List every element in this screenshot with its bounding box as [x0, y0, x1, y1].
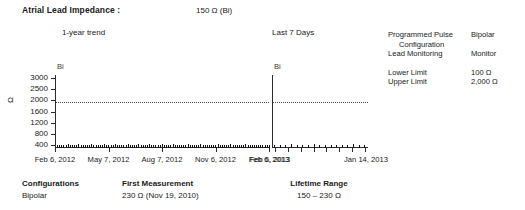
- footer-configurations-value: Bipolar: [22, 191, 79, 200]
- footer-lifetime-range-value: 150 – 230 Ω: [264, 191, 374, 200]
- param-row-lead-monitoring: Lead Monitoring Monitor: [388, 49, 525, 59]
- x-axis-tick-label: Feb 6, 2013: [244, 155, 296, 164]
- param-name: Lower Limit: [388, 68, 471, 78]
- param-name: Lead Monitoring: [388, 49, 471, 59]
- param-spacer: [388, 59, 525, 68]
- param-value: 100 Ω: [471, 68, 525, 78]
- param-value: Monitor: [471, 49, 525, 59]
- chart-last-seven-days: Bi Feb 6, 2013Jan 14, 2013: [0, 0, 380, 175]
- footer-configurations-label: Configurations: [22, 179, 79, 188]
- param-row-programmed-pulse: Programmed Pulse Bipolar: [388, 30, 525, 40]
- footer-lifetime-range: Lifetime Range 150 – 230 Ω: [264, 179, 374, 200]
- param-name: Programmed Pulse: [388, 30, 471, 40]
- param-row-lower-limit: Lower Limit 100 Ω: [388, 68, 525, 78]
- atrial-lead-impedance-panel: Atrial Lead Impedance : 150 Ω (Bi) 1-yea…: [0, 0, 525, 210]
- param-name: Upper Limit: [388, 77, 471, 87]
- param-value: [471, 40, 525, 50]
- param-row-configuration: Configuration: [388, 40, 525, 50]
- param-row-upper-limit: Upper Limit 2,000 Ω: [388, 77, 525, 87]
- param-name: Configuration: [388, 40, 471, 50]
- footer-first-measurement: First Measurement 230 Ω (Nov 19, 2010): [122, 179, 199, 200]
- parameter-panel: Programmed Pulse Bipolar Configuration L…: [388, 30, 525, 87]
- x-axis-tick-label: Jan 14, 2013: [340, 155, 392, 164]
- right-x-axis-labels: Feb 6, 2013Jan 14, 2013: [0, 0, 400, 175]
- footer-configurations: Configurations Bipolar: [22, 179, 79, 200]
- footer-first-measurement-value: 230 Ω (Nov 19, 2010): [122, 191, 199, 200]
- param-value: Bipolar: [471, 30, 525, 40]
- footer-first-measurement-label: First Measurement: [122, 179, 199, 188]
- footer-lifetime-range-label: Lifetime Range: [264, 179, 374, 188]
- param-value: 2,000 Ω: [471, 77, 525, 87]
